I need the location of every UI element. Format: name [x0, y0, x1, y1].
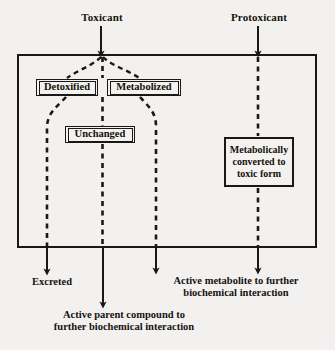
node-label-metabolized: Metabolized [110, 81, 179, 95]
flow-metabolized-to-active-metabolite [140, 97, 156, 246]
flow-toxicant-to-metabolized [103, 57, 139, 78]
source-label-protoxicant: Protoxicant [222, 11, 296, 23]
outcome-label-active-parent-compound: Active parent compound to further bioche… [18, 309, 230, 333]
node-label-detoxified: Detoxified [39, 81, 96, 95]
node-label-unchanged: Unchanged [68, 128, 133, 142]
flow-toxicant-to-detoxified [67, 57, 101, 78]
node-label-metabolically-converted: Metabolically converted to toxic form [226, 139, 292, 185]
node-box-metabolically-converted: Metabolically converted to toxic form [224, 137, 294, 187]
flow-detoxified-to-excreted [47, 97, 66, 246]
node-box-metabolized: Metabolized [107, 79, 181, 96]
node-box-detoxified: Detoxified [36, 79, 98, 96]
node-box-unchanged: Unchanged [65, 126, 135, 143]
outcome-label-active-metabolite: Active metabolite to further biochemical… [141, 275, 331, 299]
metabolic-fate-diagram: Toxicant Protoxicant Detoxified Metaboli… [0, 0, 335, 350]
outcome-label-excreted: Excreted [17, 276, 87, 288]
source-label-toxicant: Toxicant [70, 11, 134, 23]
